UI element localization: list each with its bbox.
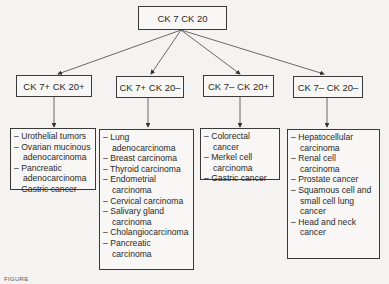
leaf-list-ck7neg-ck20neg: Hepatocellular carcinoma Renal cell carc…	[287, 129, 380, 259]
list-item: Pancreatic carcinoma	[103, 238, 190, 259]
list-item: Colorectal cancer	[204, 131, 276, 152]
root-node: CK 7 CK 20	[138, 6, 227, 30]
list-item: Pancreatic adenocarcinoma	[14, 163, 92, 184]
list-item: Cervical carcinoma	[103, 196, 190, 207]
list-item: Prostate cancer	[291, 174, 376, 185]
root-label: CK 7 CK 20	[157, 13, 207, 24]
list-item: Gastric cancer	[204, 173, 276, 184]
branch-node-ck7pos-ck20pos: CK 7+ CK 20+	[16, 75, 92, 97]
branch-label: CK 7+ CK 20–	[120, 82, 181, 93]
list-item: Gastric cancer	[14, 184, 92, 195]
branch-label: CK 7– CK 20+	[208, 81, 269, 92]
list-item: Merkel cell carcinoma	[204, 152, 276, 173]
leaf-list-ck7pos-ck20neg: Lung adenocarcinoma Breast carcinoma Thy…	[99, 129, 194, 270]
list-item: Thyroid carcinoma	[103, 164, 190, 175]
list-item: Breast carcinoma	[103, 153, 190, 164]
branch-node-ck7pos-ck20neg: CK 7+ CK 20–	[116, 76, 184, 98]
branch-node-ck7neg-ck20neg: CK 7– CK 20–	[293, 76, 363, 98]
list-item: Lung adenocarcinoma	[103, 132, 190, 153]
branch-label: CK 7+ CK 20+	[23, 81, 84, 92]
list-item: Ovarian mucinous adenocarcinoma	[14, 142, 92, 163]
list-item: Head and neck cancer	[291, 217, 376, 238]
list-item: Hepatocellular carcinoma	[291, 132, 376, 153]
list-item: Urothelial tumors	[14, 131, 92, 142]
leaf-list-ck7neg-ck20pos: Colorectal cancer Merkel cell carcinoma …	[200, 128, 280, 180]
leaf-list-ck7pos-ck20pos: Urothelial tumors Ovarian mucinous adeno…	[10, 128, 96, 190]
list-item: Cholangiocarcinoma	[103, 227, 190, 238]
list-item: Endometrial carcinoma	[103, 174, 190, 195]
list-item: Salivary gland carcinoma	[103, 206, 190, 227]
branch-node-ck7neg-ck20pos: CK 7– CK 20+	[203, 75, 274, 97]
list-item: Renal cell carcinoma	[291, 153, 376, 174]
figure-caption: FIGURE	[4, 276, 28, 282]
list-item: Squamous cell and small cell lung cancer	[291, 185, 376, 217]
branch-label: CK 7– CK 20–	[298, 82, 359, 93]
